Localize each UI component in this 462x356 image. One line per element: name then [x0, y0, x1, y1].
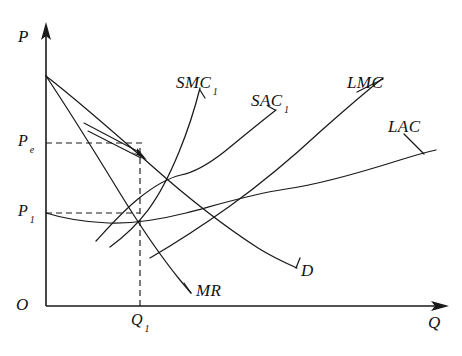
- leader-d: [296, 258, 300, 268]
- curve-label-sac1-base: SAC: [251, 91, 284, 110]
- leader-lac: [404, 134, 424, 154]
- curve-label-lac: LAC: [388, 118, 420, 135]
- curve-label-sac1-subscript: 1: [284, 104, 289, 115]
- demand-shift-arrow: [84, 123, 147, 160]
- curve-sac1: [96, 110, 276, 241]
- curve-label-smc1-subscript: 1: [213, 86, 218, 97]
- curves-group: [46, 76, 436, 293]
- price-label-pe-subscript: e: [30, 144, 34, 155]
- price-label-pe: Pe: [18, 133, 34, 152]
- price-label-pe-base: P: [18, 132, 30, 149]
- quantity-label-q1: Q1: [131, 312, 149, 331]
- curve-label-sac1: SAC1: [251, 92, 289, 112]
- price-label-p1: P1: [18, 203, 35, 222]
- price-axis-label: P: [18, 28, 29, 45]
- curve-label-smc1-base: SMC: [176, 73, 213, 92]
- curve-label-lmc: LMC: [347, 74, 383, 91]
- curve-label-mr: MR: [196, 282, 221, 299]
- curve-label-smc1: SMC1: [176, 74, 218, 94]
- origin-label: O: [16, 296, 29, 313]
- quantity-axis-label: Q: [428, 314, 441, 331]
- price-label-p1-base: P: [18, 202, 30, 219]
- quantity-label-q1-subscript: 1: [144, 323, 149, 334]
- curve-mr: [46, 76, 191, 293]
- leader-mr: [184, 283, 191, 293]
- diagram-canvas: [0, 0, 462, 356]
- curve-lac: [46, 150, 436, 223]
- price-label-p1-subscript: 1: [30, 214, 35, 225]
- economics-diagram: P Q O Pe P1 Q1 SMC1 SAC1 LMC LAC D MR: [0, 0, 462, 356]
- curve-label-d: D: [301, 262, 314, 279]
- quantity-label-q1-base: Q: [131, 311, 144, 328]
- guide-lines-group: [46, 143, 142, 306]
- axes-group: [41, 22, 449, 311]
